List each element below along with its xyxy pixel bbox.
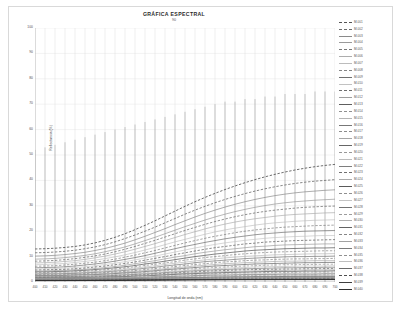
legend-item[interactable]: M-028 <box>339 204 393 211</box>
y-tick-label: 50 <box>13 153 33 156</box>
legend-item[interactable]: M-032 <box>339 231 393 238</box>
legend-swatch <box>339 138 352 139</box>
legend-item[interactable]: M-013 <box>339 101 393 108</box>
legend-item[interactable]: M-036 <box>339 259 393 266</box>
legend-item[interactable]: M-026 <box>339 190 393 197</box>
legend-item[interactable]: M-024 <box>339 176 393 183</box>
legend-item[interactable]: M-015 <box>339 115 393 122</box>
legend-label: M-018 <box>354 137 363 140</box>
legend-swatch <box>339 84 352 85</box>
chart-legend[interactable]: M-001M-002M-003M-004M-005M-006M-007M-008… <box>339 19 393 301</box>
legend-swatch <box>339 152 352 153</box>
x-axis-label: Longitud de onda (nm) <box>35 296 335 300</box>
legend-swatch <box>339 166 352 167</box>
legend-label: M-001 <box>354 21 363 24</box>
legend-label: M-028 <box>354 206 363 209</box>
legend-label: M-029 <box>354 213 363 216</box>
legend-item[interactable]: M-035 <box>339 252 393 259</box>
legend-item[interactable]: M-004 <box>339 40 393 47</box>
legend-swatch <box>339 125 352 126</box>
legend-label: M-013 <box>354 103 363 106</box>
legend-item[interactable]: M-009 <box>339 74 393 81</box>
legend-swatch <box>339 97 352 98</box>
y-tick-label: 20 <box>13 229 33 232</box>
legend-label: M-004 <box>354 41 363 44</box>
legend-label: M-016 <box>354 124 363 127</box>
plot-canvas <box>35 28 335 282</box>
legend-swatch <box>339 118 352 119</box>
y-tick-label: 0 <box>13 280 33 283</box>
legend-item[interactable]: M-033 <box>339 238 393 245</box>
legend-item[interactable]: M-002 <box>339 26 393 33</box>
legend-swatch <box>339 172 352 173</box>
legend-swatch <box>339 261 352 262</box>
legend-label: M-038 <box>354 274 363 277</box>
legend-label: M-011 <box>354 89 363 92</box>
legend-item[interactable]: M-017 <box>339 129 393 136</box>
legend-swatch <box>339 42 352 43</box>
legend-swatch <box>339 111 352 112</box>
legend-label: M-036 <box>354 260 363 263</box>
legend-label: M-035 <box>354 254 363 257</box>
legend-item[interactable]: M-003 <box>339 33 393 40</box>
legend-swatch <box>339 289 352 290</box>
legend-item[interactable]: M-022 <box>339 163 393 170</box>
legend-item[interactable]: M-038 <box>339 272 393 279</box>
legend-item[interactable]: M-029 <box>339 211 393 218</box>
legend-item[interactable]: M-018 <box>339 135 393 142</box>
legend-item[interactable]: M-001 <box>339 19 393 26</box>
legend-item[interactable]: M-030 <box>339 217 393 224</box>
y-tick-label: 30 <box>13 204 33 207</box>
legend-label: M-039 <box>354 281 363 284</box>
plot-area: Reflectancia (%) Longitud de onda (nm) 0… <box>35 28 335 282</box>
legend-label: M-002 <box>354 28 363 31</box>
y-axis-label: Reflectancia (%) <box>49 108 53 168</box>
legend-item[interactable]: M-039 <box>339 279 393 286</box>
chart-title: GRÁFICA ESPECTRAL <box>9 11 339 17</box>
legend-label: M-014 <box>354 110 363 113</box>
legend-item[interactable]: M-019 <box>339 142 393 149</box>
legend-label: M-012 <box>354 96 363 99</box>
legend-label: M-008 <box>354 69 363 72</box>
legend-label: M-026 <box>354 192 363 195</box>
y-tick-label: 80 <box>13 77 33 80</box>
legend-swatch <box>339 179 352 180</box>
legend-item[interactable]: M-012 <box>339 94 393 101</box>
legend-item[interactable]: M-007 <box>339 60 393 67</box>
legend-swatch <box>339 36 352 37</box>
legend-swatch <box>339 63 352 64</box>
legend-label: M-010 <box>354 82 363 85</box>
legend-item[interactable]: M-021 <box>339 156 393 163</box>
legend-item[interactable]: M-014 <box>339 108 393 115</box>
legend-swatch <box>339 104 352 105</box>
legend-swatch <box>339 159 352 160</box>
legend-swatch <box>339 275 352 276</box>
legend-item[interactable]: M-027 <box>339 197 393 204</box>
legend-item[interactable]: M-034 <box>339 245 393 252</box>
y-tick-label: 40 <box>13 178 33 181</box>
legend-item[interactable]: M-031 <box>339 224 393 231</box>
legend-label: M-009 <box>354 76 363 79</box>
legend-item[interactable]: M-016 <box>339 122 393 129</box>
legend-item[interactable]: M-011 <box>339 87 393 94</box>
legend-item[interactable]: M-010 <box>339 81 393 88</box>
legend-label: M-025 <box>354 185 363 188</box>
legend-label: M-031 <box>354 226 363 229</box>
stem-marks <box>35 92 335 283</box>
legend-item[interactable]: M-006 <box>339 53 393 60</box>
legend-label: M-027 <box>354 199 363 202</box>
legend-swatch <box>339 255 352 256</box>
legend-label: M-040 <box>354 288 363 291</box>
legend-item[interactable]: M-005 <box>339 46 393 53</box>
legend-label: M-032 <box>354 233 363 236</box>
legend-swatch <box>339 214 352 215</box>
legend-item[interactable]: M-008 <box>339 67 393 74</box>
legend-item[interactable]: M-023 <box>339 170 393 177</box>
legend-swatch <box>339 145 352 146</box>
legend-item[interactable]: M-020 <box>339 149 393 156</box>
legend-item[interactable]: M-037 <box>339 265 393 272</box>
legend-label: M-021 <box>354 158 363 161</box>
legend-item[interactable]: M-040 <box>339 286 393 293</box>
legend-item[interactable]: M-025 <box>339 183 393 190</box>
legend-label: M-020 <box>354 151 363 154</box>
